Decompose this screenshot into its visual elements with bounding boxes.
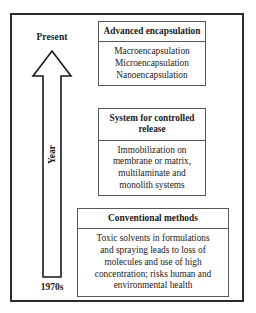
stage-body-line: concentration; risks human and <box>81 269 225 281</box>
stage-body-line: environmental health <box>81 280 225 292</box>
stage-body-line: Nanoencapsulation <box>102 70 202 82</box>
stage-body: Immobilization on membrane or matrix, mu… <box>99 141 205 195</box>
stage-body-line: membrane or matrix, <box>102 156 202 168</box>
axis-name-label: Year <box>47 146 57 164</box>
stage-body-line: molecules and use of high <box>81 257 225 269</box>
stage-header: Conventional methods <box>78 209 228 229</box>
stage-body-line: multilaminate and <box>102 168 202 180</box>
stage-body: Toxic solvents in formulations and spray… <box>78 229 228 296</box>
timeline-figure: Present Year 1970s Advanced encapsulatio… <box>0 0 256 313</box>
stage-body-line: Toxic solvents in formulations <box>81 233 225 245</box>
stage-header: System for controlled release <box>99 109 205 141</box>
stage-header-line: Advanced <box>104 26 144 36</box>
axis-top-label: Present <box>18 32 86 43</box>
stage-box-conventional-methods: Conventional methods Toxic solvents in f… <box>77 208 229 297</box>
stage-box-advanced-encapsulation: Advanced encapsulation Macroencapsulatio… <box>98 21 206 86</box>
stage-header-line: System for <box>110 113 152 123</box>
stage-header-line: encapsulation <box>146 26 201 36</box>
stage-body: Macroencapsulation Microencapsulation Na… <box>99 42 205 85</box>
stage-header: Advanced encapsulation <box>99 22 205 42</box>
up-arrow-icon <box>30 48 74 280</box>
stage-body-line: Microencapsulation <box>102 58 202 70</box>
stage-box-controlled-release: System for controlled release Immobiliza… <box>98 108 206 196</box>
stage-header-line: Conventional methods <box>108 213 198 223</box>
stage-body-line: Macroencapsulation <box>102 46 202 58</box>
stage-body-line: Immobilization on <box>102 145 202 157</box>
stage-body-line: monolith systems <box>102 180 202 192</box>
year-axis: Present Year 1970s <box>18 20 86 290</box>
stage-body-line: and spraying leads to loss of <box>81 245 225 257</box>
axis-bottom-label: 1970s <box>18 282 86 293</box>
